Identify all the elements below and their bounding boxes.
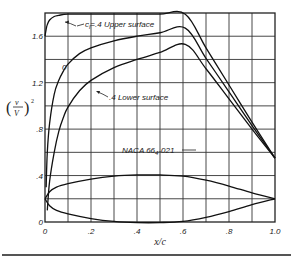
y-tick-label: 1.6 <box>32 32 44 41</box>
y-tick-label: .8 <box>36 125 43 134</box>
svg-text:V: V <box>14 109 20 118</box>
y-axis-label: ( v V ) 2 <box>6 98 34 118</box>
grid <box>45 13 275 222</box>
y-tick-label: .4 <box>36 172 43 181</box>
svg-text:cl=.4 Upper surface: cl=.4 Upper surface <box>85 20 155 30</box>
y-tick-labels: 0.4.81.21.6 <box>32 32 44 227</box>
x-tick-label: .8 <box>226 227 233 236</box>
svg-text:(: ( <box>6 99 11 117</box>
svg-text:NACA 664-021: NACA 664-021 <box>122 146 174 156</box>
pressure-distribution-chart: 0.2.4.6.81.0 0.4.81.21.6 ( v V ) 2 x/c c… <box>0 0 293 257</box>
curve-cl-0 <box>46 27 275 188</box>
annotation-lower-surface: .4 Lower surface <box>96 91 169 102</box>
x-tick-label: .6 <box>180 227 187 236</box>
annotation-airfoil: NACA 664-021 <box>122 146 196 156</box>
curve-cl-4-lower-surface <box>47 44 275 211</box>
x-tick-label: .2 <box>88 227 95 236</box>
x-tick-label: .4 <box>134 227 141 236</box>
y-tick-label: 0 <box>39 218 44 227</box>
svg-text:): ) <box>24 99 29 117</box>
x-tick-label: 0 <box>43 227 48 236</box>
svg-text:v: v <box>15 98 19 107</box>
bottom-rule <box>2 254 291 256</box>
svg-text:2: 2 <box>31 98 34 104</box>
annotation-cl-zero: 0 <box>62 63 67 72</box>
svg-text:.4 Lower surface: .4 Lower surface <box>109 93 169 102</box>
x-tick-labels: 0.2.4.6.81.0 <box>43 227 281 236</box>
y-tick-label: 1.2 <box>32 79 44 88</box>
x-axis-label: x/c <box>153 236 166 247</box>
x-tick-label: 1.0 <box>269 227 281 236</box>
annotation-upper-surface: cl=.4 Upper surface <box>65 20 155 30</box>
